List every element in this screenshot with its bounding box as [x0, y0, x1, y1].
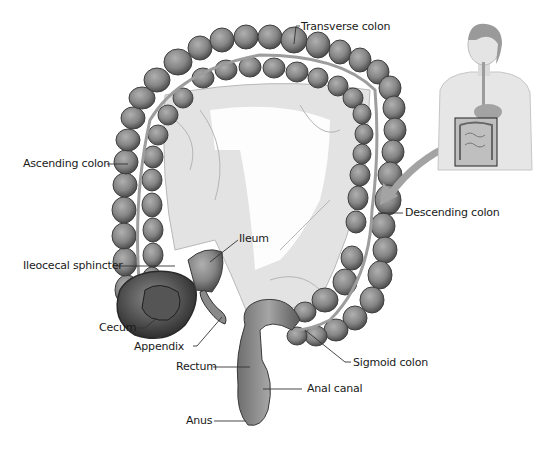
label-ileocecal-sphincter: Ileocecal sphincter — [23, 259, 123, 272]
inset-torso — [438, 24, 532, 170]
label-appendix: Appendix — [134, 340, 184, 353]
colon-illustration — [0, 0, 535, 449]
label-sigmoid-colon: Sigmoid colon — [353, 356, 428, 369]
appendix — [200, 290, 226, 324]
label-cecum: Cecum — [99, 321, 136, 334]
label-ascending-colon: Ascending colon — [23, 157, 110, 170]
label-transverse-colon: Transverse colon — [301, 20, 390, 33]
label-anus: Anus — [186, 414, 212, 427]
label-rectum: Rectum — [176, 360, 217, 373]
label-anal-canal: Anal canal — [307, 382, 362, 395]
rectum — [237, 299, 300, 425]
large-intestine-diagram: Transverse colon Ascending colon Descend… — [0, 0, 535, 449]
label-descending-colon: Descending colon — [405, 206, 500, 219]
label-ileum: Ileum — [239, 232, 269, 245]
